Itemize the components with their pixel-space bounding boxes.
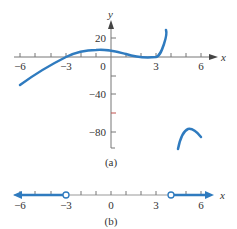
a-y-tick-label: 20 bbox=[95, 32, 107, 44]
panel-b-label: (b) bbox=[105, 215, 118, 228]
a-y-axis-label: y bbox=[107, 8, 113, 20]
a-curve-right bbox=[178, 129, 201, 149]
a-x-tick-label: 6 bbox=[198, 60, 204, 72]
panel-a-label: (a) bbox=[105, 156, 118, 169]
b-x-tick-label: 6 bbox=[198, 199, 204, 211]
panel-b: x −6 −3 0 3 6 (b) bbox=[13, 189, 225, 228]
a-y-arrow-icon bbox=[108, 20, 114, 29]
a-x-tick-label: −3 bbox=[60, 60, 72, 72]
b-x-tick-label: 3 bbox=[153, 199, 159, 211]
a-y-ticks bbox=[111, 38, 116, 148]
b-x-tick-label: −3 bbox=[60, 199, 72, 211]
a-x-tick-label: −6 bbox=[14, 60, 26, 72]
b-right-arrow-icon bbox=[205, 191, 214, 199]
b-x-axis-label: x bbox=[219, 189, 225, 201]
a-x-axis-label: x bbox=[220, 51, 226, 63]
panel-a: x −6 −3 0 3 6 y 20 −40 −80 (a) bbox=[14, 8, 226, 169]
a-y-tick-label: −80 bbox=[89, 126, 107, 138]
a-x-tick-label: 3 bbox=[153, 60, 159, 72]
b-open-point-4 bbox=[168, 192, 174, 198]
b-x-tick-label: −6 bbox=[14, 199, 26, 211]
a-y-tick-label: −40 bbox=[89, 88, 107, 100]
a-x-arrow-icon bbox=[209, 54, 218, 60]
a-x-tick-label: 0 bbox=[100, 60, 106, 72]
figure: x −6 −3 0 3 6 y 20 −40 −80 (a) bbox=[0, 0, 237, 229]
b-left-arrow-icon bbox=[13, 191, 22, 199]
b-x-tick-label: 0 bbox=[108, 199, 114, 211]
b-open-point-neg3 bbox=[63, 192, 69, 198]
